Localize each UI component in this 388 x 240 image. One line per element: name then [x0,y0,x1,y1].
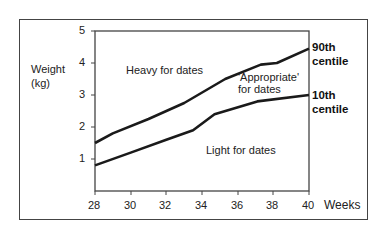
x-tick-label: 30 [124,199,136,211]
light-for-dates-label: Light for dates [206,144,276,157]
x-axis-label: Weeks [324,199,360,212]
axes [91,31,309,195]
y-axis-label-weight: Weight [31,63,65,76]
x-tick-label: 38 [266,199,278,211]
heavy-for-dates-label: Heavy for dates [126,64,203,77]
y-tick-label: 2 [79,120,85,132]
p10-label-line2: centile [312,103,348,116]
p90-label-line2: centile [312,55,348,68]
p10-label-line1: 10th [312,89,336,102]
p90-label-line1: 90th [312,41,336,54]
x-tick-label: 32 [159,199,171,211]
y-axis-label-unit: (kg) [31,77,50,90]
y-tick-label: 5 [79,24,85,36]
y-tick-label: 1 [79,152,85,164]
appropriate-label-line2: for dates [238,83,281,96]
x-tick-label: 36 [231,199,243,211]
x-tick-label: 34 [195,199,207,211]
x-tick-label: 28 [88,199,100,211]
x-tick-label: 40 [302,199,314,211]
y-tick-label: 3 [79,88,85,100]
line-10th-centile [95,95,309,165]
y-tick-label: 4 [79,56,85,68]
